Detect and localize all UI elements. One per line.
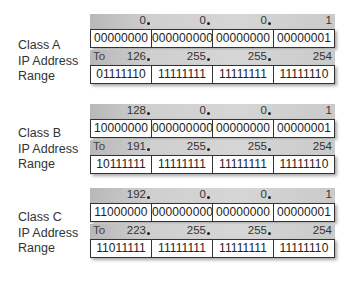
end-octet-strip: To 126 255 255 254	[90, 50, 335, 65]
octet-value: 255	[248, 224, 267, 236]
binary-cell: 00000000	[212, 120, 273, 137]
dot-separator-icon	[268, 22, 271, 25]
octet-value: 1	[326, 104, 332, 116]
octet-value: 0	[200, 188, 206, 200]
dot-separator-icon	[207, 232, 210, 235]
octet-value: 0	[261, 14, 267, 26]
dot-separator-icon	[268, 196, 271, 199]
class-label-line: IP Address	[18, 226, 78, 242]
octet-value: 1	[326, 188, 332, 200]
class-b-label: Class B IP Address Range	[18, 126, 78, 173]
octet-value: 191	[127, 140, 146, 152]
dot-separator-icon	[268, 58, 271, 61]
binary-cell: 11111111	[151, 66, 212, 83]
octet-value: 255	[187, 224, 206, 236]
octet-value: 255	[187, 50, 206, 62]
octet-value: 254	[313, 140, 332, 152]
class-b-range-block: 128 0 0 1 10000000 000000000 00000000 00…	[90, 104, 335, 175]
class-label-line: Range	[18, 241, 78, 257]
class-label-line: Range	[18, 69, 78, 85]
class-c-label: Class C IP Address Range	[18, 210, 78, 257]
binary-cell: 11011111	[91, 240, 151, 257]
octet-value: 128	[127, 104, 146, 116]
class-label-line: Range	[18, 157, 78, 173]
binary-cell: 000000000	[151, 204, 212, 221]
class-label-line: IP Address	[18, 54, 78, 70]
dot-separator-icon	[268, 112, 271, 115]
binary-cell: 00000000	[212, 204, 273, 221]
binary-cell: 10111111	[91, 156, 151, 173]
binary-cell: 11111111	[151, 240, 212, 257]
dot-separator-icon	[147, 148, 150, 151]
binary-cell: 000000000	[151, 30, 212, 47]
end-octet-strip: To 191 255 255 254	[90, 140, 335, 155]
start-binary-row: 10000000 000000000 00000000 00000001	[90, 119, 335, 138]
binary-cell: 00000000	[212, 30, 273, 47]
binary-cell: 11111110	[273, 240, 334, 257]
binary-cell: 01111110	[91, 66, 151, 83]
dot-separator-icon	[147, 58, 150, 61]
octet-value: 1	[326, 14, 332, 26]
dot-separator-icon	[268, 232, 271, 235]
octet-value: 0	[200, 104, 206, 116]
binary-cell: 000000000	[151, 120, 212, 137]
octet-value: 254	[313, 50, 332, 62]
start-octet-strip: 0 0 0 1	[90, 14, 335, 29]
binary-cell: 11111111	[212, 66, 273, 83]
octet-value: 255	[248, 140, 267, 152]
dot-separator-icon	[207, 58, 210, 61]
binary-cell: 11111111	[212, 240, 273, 257]
octet-value: 255	[248, 50, 267, 62]
dot-separator-icon	[147, 232, 150, 235]
class-a-range-block: 0 0 0 1 00000000 000000000 00000000 0000…	[90, 14, 335, 85]
binary-cell: 00000001	[273, 204, 334, 221]
end-binary-row: 01111110 11111111 11111111 11111110	[90, 65, 335, 84]
binary-cell: 10000000	[91, 120, 151, 137]
class-label-line: Class C	[18, 210, 78, 226]
octet-value: 254	[313, 224, 332, 236]
dot-separator-icon	[207, 22, 210, 25]
dot-separator-icon	[268, 148, 271, 151]
end-binary-row: 11011111 11111111 11111111 11111110	[90, 239, 335, 258]
binary-cell: 00000001	[273, 30, 334, 47]
class-c-range-block: 192 0 0 1 11000000 000000000 00000000 00…	[90, 188, 335, 259]
octet-value: 126	[127, 50, 146, 62]
binary-cell: 11111111	[212, 156, 273, 173]
dot-separator-icon	[147, 196, 150, 199]
start-binary-row: 11000000 000000000 00000000 00000001	[90, 203, 335, 222]
dot-separator-icon	[147, 112, 150, 115]
binary-cell: 11111110	[273, 156, 334, 173]
class-label-line: IP Address	[18, 142, 78, 158]
start-binary-row: 00000000 000000000 00000000 00000001	[90, 29, 335, 48]
octet-value: 0	[261, 188, 267, 200]
end-binary-row: 10111111 11111111 11111111 11111110	[90, 155, 335, 174]
class-a-label: Class A IP Address Range	[18, 38, 78, 85]
dot-separator-icon	[147, 22, 150, 25]
octet-value: 223	[127, 224, 146, 236]
octet-value: 192	[127, 188, 146, 200]
binary-cell: 11111110	[273, 66, 334, 83]
class-label-line: Class B	[18, 126, 78, 142]
octet-value: 0	[140, 14, 146, 26]
dot-separator-icon	[207, 148, 210, 151]
binary-cell: 00000001	[273, 120, 334, 137]
dot-separator-icon	[207, 112, 210, 115]
binary-cell: 11111111	[151, 156, 212, 173]
dot-separator-icon	[207, 196, 210, 199]
class-label-line: Class A	[18, 38, 78, 54]
start-octet-strip: 128 0 0 1	[90, 104, 335, 119]
octet-value: 0	[200, 14, 206, 26]
end-octet-strip: To 223 255 255 254	[90, 224, 335, 239]
start-octet-strip: 192 0 0 1	[90, 188, 335, 203]
binary-cell: 11000000	[91, 204, 151, 221]
octet-value: 0	[261, 104, 267, 116]
octet-value: 255	[187, 140, 206, 152]
binary-cell: 00000000	[91, 30, 151, 47]
